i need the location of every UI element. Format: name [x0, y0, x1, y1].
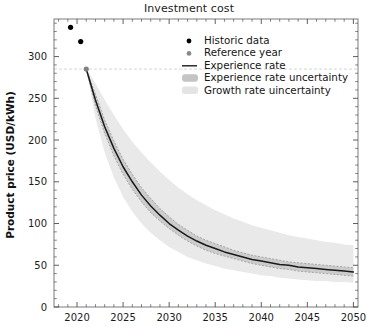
historic-data-point	[78, 39, 83, 44]
legend-marker-patch	[182, 74, 198, 82]
x-tick-label: 2035	[202, 312, 227, 323]
chart-legend: Historic dataReference yearExperience ra…	[182, 34, 348, 96]
y-tick-label: 50	[34, 260, 47, 271]
investment-cost-line-chart: 2020202520302035204020452050 05010015020…	[0, 0, 378, 332]
legend-marker-patch	[182, 87, 198, 95]
legend-label: Experience rate	[204, 59, 286, 71]
historic-data-points	[68, 25, 83, 44]
reference-year-point	[84, 66, 89, 71]
y-tick-label: 150	[28, 176, 47, 187]
y-tick-label: 250	[28, 93, 47, 104]
reference-year-point	[84, 66, 89, 71]
x-tick-label: 2025	[110, 312, 135, 323]
legend-marker-dot	[187, 39, 192, 44]
chart-figure: Investment cost 202020252030203520402045…	[0, 0, 378, 332]
legend-marker-dot	[187, 51, 192, 56]
y-tick-labels: 050100150200250300	[28, 51, 47, 312]
x-tick-label: 2050	[341, 312, 366, 323]
y-tick-label: 200	[28, 135, 47, 146]
y-axis-label: Product price (USD/kWh)	[4, 91, 16, 239]
x-tick-label: 2020	[64, 312, 89, 323]
y-tick-label: 100	[28, 218, 47, 229]
historic-data-point	[68, 25, 73, 30]
legend-label: Experience rate uncertainty	[204, 71, 348, 83]
y-tick-label: 300	[28, 51, 47, 62]
y-tick-label: 0	[41, 302, 47, 313]
x-tick-label: 2045	[295, 312, 320, 323]
legend-label: Historic data	[204, 34, 270, 46]
legend-label: Reference year	[204, 46, 283, 58]
x-tick-label: 2040	[249, 312, 274, 323]
x-tick-labels: 2020202520302035204020452050	[64, 312, 366, 323]
legend-label: Growth rate uincertainty	[204, 84, 331, 96]
x-tick-label: 2030	[156, 312, 181, 323]
